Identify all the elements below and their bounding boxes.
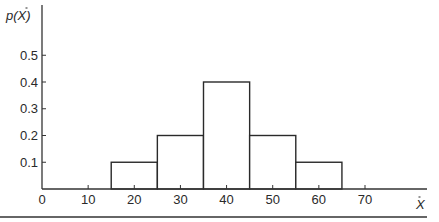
histogram-bar (204, 82, 250, 189)
x-tick-label: 0 (38, 192, 45, 207)
y-axis-label: p(X) (5, 8, 31, 23)
x-tick-label: 70 (358, 192, 372, 207)
x-axis-title: X (415, 197, 426, 212)
x-tick-label: 50 (265, 192, 279, 207)
y-tick-label: 0.1 (20, 155, 38, 170)
x-tick-label: 30 (173, 192, 187, 207)
y-axis-title: p(X) (5, 8, 31, 23)
x-tick-label: 10 (81, 192, 95, 207)
histogram-bar (296, 162, 342, 189)
histogram-bars (111, 82, 342, 189)
y-tick-label: 0.3 (20, 101, 38, 116)
histogram-bar (250, 136, 296, 190)
x-axis-label: X (415, 197, 426, 212)
y-tick-label: 0.2 (20, 128, 38, 143)
histogram-chart: 010203040506070 0.10.20.30.40.5 p(X) X (0, 0, 439, 222)
x-tick-label: 20 (127, 192, 141, 207)
y-tick-label: 0.5 (20, 48, 38, 63)
histogram-bar (157, 136, 203, 190)
x-tick-label: 60 (312, 192, 326, 207)
histogram-bar (111, 162, 157, 189)
y-tick-label: 0.4 (20, 75, 38, 90)
x-tick-label: 40 (219, 192, 233, 207)
